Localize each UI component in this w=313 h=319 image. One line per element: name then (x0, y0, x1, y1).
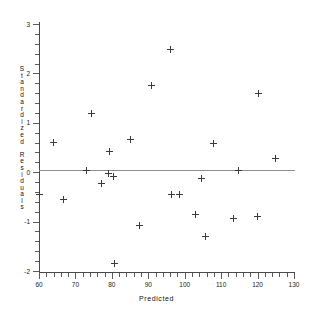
x-minor-tick (192, 273, 193, 277)
data-point (192, 211, 199, 218)
data-point (167, 46, 174, 53)
y-minor-tick (35, 54, 39, 55)
data-point (136, 222, 143, 229)
x-minor-tick (243, 273, 244, 277)
x-minor-tick (97, 273, 98, 277)
x-minor-tick (134, 273, 135, 277)
y-tick (33, 73, 39, 74)
x-minor-tick (279, 273, 280, 277)
x-tick (221, 273, 222, 279)
y-tick (33, 123, 39, 124)
x-tick (148, 273, 149, 279)
x-minor-tick (236, 273, 237, 277)
y-tick-label: 1 (12, 119, 30, 126)
x-minor-tick (214, 273, 215, 277)
zero-reference-line (39, 170, 295, 171)
data-point (88, 110, 95, 117)
x-minor-tick (177, 273, 178, 277)
y-minor-tick (35, 93, 39, 94)
x-minor-tick (119, 273, 120, 277)
data-point (50, 139, 57, 146)
x-minor-tick (61, 273, 62, 277)
x-tick-label: 130 (282, 281, 306, 288)
data-point (36, 191, 43, 198)
y-axis-title: Standardized Residuals (17, 66, 27, 211)
x-tick-label: 90 (136, 281, 160, 288)
x-minor-tick (207, 273, 208, 277)
y-minor-tick (35, 241, 39, 242)
x-minor-tick (228, 273, 229, 277)
data-point (98, 180, 105, 187)
x-tick (39, 273, 40, 279)
y-minor-tick (35, 261, 39, 262)
y-minor-tick (35, 113, 39, 114)
data-point (111, 260, 118, 267)
x-tick (258, 273, 259, 279)
y-tick (33, 172, 39, 173)
y-axis-line (39, 22, 40, 273)
x-minor-tick (68, 273, 69, 277)
data-point (272, 155, 279, 162)
data-point (106, 148, 113, 155)
x-minor-tick (272, 273, 273, 277)
residual-plot-figure: Standardized Residuals 3210-1-2 60708090… (0, 0, 313, 319)
data-point (255, 90, 262, 97)
x-minor-tick (83, 273, 84, 277)
data-point (254, 213, 261, 220)
x-tick (112, 273, 113, 279)
data-point (202, 233, 209, 240)
y-minor-tick (35, 83, 39, 84)
x-minor-tick (105, 273, 106, 277)
y-minor-tick (35, 182, 39, 183)
x-minor-tick (170, 273, 171, 277)
y-tick-label: 0 (12, 169, 30, 176)
data-point (110, 173, 117, 180)
y-minor-tick (35, 162, 39, 163)
data-point (198, 175, 205, 182)
x-minor-tick (199, 273, 200, 277)
data-point (176, 191, 183, 198)
x-minor-tick (141, 273, 142, 277)
y-minor-tick (35, 44, 39, 45)
y-tick-label: -1 (12, 218, 30, 225)
y-tick (33, 271, 39, 272)
y-axis-title-char: s (17, 204, 27, 211)
y-tick (33, 24, 39, 25)
x-minor-tick (126, 273, 127, 277)
x-minor-tick (90, 273, 91, 277)
y-tick-label: 3 (12, 21, 30, 28)
x-tick-label: 70 (63, 281, 87, 288)
y-minor-tick (35, 64, 39, 65)
y-minor-tick (35, 251, 39, 252)
data-point (60, 196, 67, 203)
y-tick-label: 2 (12, 70, 30, 77)
x-tick-label: 110 (209, 281, 233, 288)
y-minor-tick (35, 143, 39, 144)
y-minor-tick (35, 103, 39, 104)
data-point (230, 215, 237, 222)
x-minor-tick (250, 273, 251, 277)
x-tick-label: 100 (173, 281, 197, 288)
x-tick (185, 273, 186, 279)
x-minor-tick (163, 273, 164, 277)
x-tick-label: 80 (100, 281, 124, 288)
x-minor-tick (265, 273, 266, 277)
y-minor-tick (35, 231, 39, 232)
x-axis-title: Predicted (0, 295, 313, 302)
y-minor-tick (35, 152, 39, 153)
x-tick-label: 60 (27, 281, 51, 288)
y-tick-label: -2 (12, 268, 30, 275)
data-point (235, 167, 242, 174)
data-point (127, 136, 134, 143)
x-tick-label: 120 (246, 281, 270, 288)
y-minor-tick (35, 202, 39, 203)
x-minor-tick (54, 273, 55, 277)
x-minor-tick (156, 273, 157, 277)
data-point (210, 140, 217, 147)
y-minor-tick (35, 34, 39, 35)
y-minor-tick (35, 133, 39, 134)
data-point (83, 167, 90, 174)
x-minor-tick (46, 273, 47, 277)
data-point (148, 82, 155, 89)
y-minor-tick (35, 212, 39, 213)
